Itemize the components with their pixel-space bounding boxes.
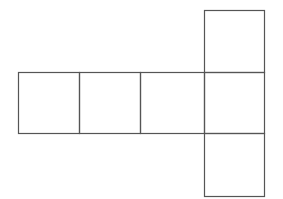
cube-face-row-1 [19,73,80,134]
cube-face-top [205,11,265,73]
cube-face-bottom [205,134,265,197]
cube-face-row-2 [80,73,141,134]
cube-face-row-3 [141,73,205,134]
cube-face-row-4 [205,73,265,134]
cube-net-diagram [0,0,283,199]
cube-net-faces [19,11,265,197]
